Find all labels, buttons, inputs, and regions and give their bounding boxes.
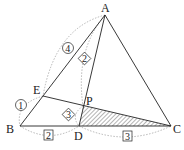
ratio-ae-marker: 4 <box>63 43 74 54</box>
ratio-bd-marker: 2 <box>44 130 53 141</box>
label-a: A <box>101 1 110 15</box>
svg-text:3: 3 <box>125 131 130 142</box>
label-e: E <box>33 83 40 97</box>
label-b: B <box>6 122 14 136</box>
label-p: P <box>86 94 93 108</box>
svg-text:2: 2 <box>82 53 87 64</box>
svg-text:3: 3 <box>66 109 71 120</box>
ratio-ap-marker: 2 <box>78 52 91 65</box>
svg-text:4: 4 <box>65 43 70 54</box>
ratio-pd-marker: 3 <box>62 108 75 121</box>
ratio-eb-marker: 1 <box>16 100 27 111</box>
svg-text:2: 2 <box>46 130 51 141</box>
svg-text:1: 1 <box>18 100 23 111</box>
label-d: D <box>74 129 83 143</box>
label-c: C <box>173 122 181 136</box>
geometry-diagram: A B C D E P 4 1 2 3 2 3 <box>0 0 184 150</box>
ratio-dc-marker: 3 <box>123 131 132 142</box>
